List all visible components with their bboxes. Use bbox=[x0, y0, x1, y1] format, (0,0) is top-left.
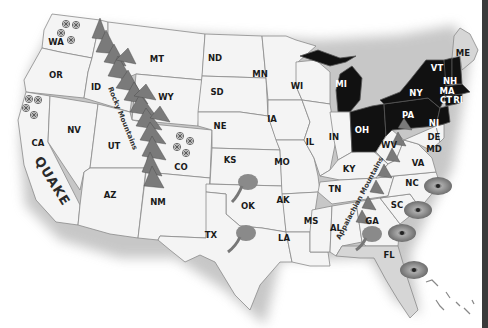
label-NE: NE bbox=[214, 121, 227, 131]
snowflake-icon bbox=[186, 137, 193, 144]
label-WV: WV bbox=[381, 140, 397, 150]
snowflake-icon bbox=[173, 143, 180, 150]
hurricane-icon-nc bbox=[424, 177, 452, 195]
snowflake-icon bbox=[34, 96, 41, 103]
label-AL: AL bbox=[330, 223, 343, 233]
label-CT: CT bbox=[440, 95, 452, 105]
label-SD: SD bbox=[210, 87, 223, 97]
label-CA: CA bbox=[32, 138, 45, 148]
label-PA: PA bbox=[402, 110, 414, 120]
label-ND: ND bbox=[208, 53, 222, 63]
label-ID: ID bbox=[91, 82, 101, 92]
us-hazards-map: Rocky Mountains Appalachian Mountains bbox=[0, 0, 488, 328]
state-AZ[interactable] bbox=[78, 168, 146, 238]
label-MT: MT bbox=[150, 54, 164, 64]
label-UT: UT bbox=[108, 141, 121, 151]
label-MD: MD bbox=[426, 144, 442, 154]
state-MS[interactable] bbox=[310, 206, 332, 252]
label-TN: TN bbox=[329, 184, 342, 194]
label-KS: KS bbox=[224, 155, 237, 165]
label-NY: NY bbox=[409, 88, 423, 98]
label-OK: OK bbox=[241, 201, 255, 211]
label-IL: IL bbox=[306, 137, 315, 147]
label-IA: IA bbox=[267, 114, 277, 124]
label-IN: IN bbox=[329, 132, 339, 142]
label-SC: SC bbox=[391, 200, 403, 210]
hurricane-icon-ga bbox=[388, 224, 416, 242]
label-GA: GA bbox=[365, 216, 379, 226]
snowflake-icon bbox=[22, 104, 29, 111]
label-NM: NM bbox=[150, 197, 166, 207]
label-MN: MN bbox=[252, 69, 268, 79]
state-SD[interactable] bbox=[198, 76, 268, 116]
label-RI: RI bbox=[453, 95, 463, 105]
label-FL: FL bbox=[383, 250, 395, 260]
snowflake-icon bbox=[62, 20, 69, 27]
label-TX: TX bbox=[205, 230, 218, 240]
hurricane-icon-fl bbox=[400, 261, 428, 279]
label-MI: MI bbox=[335, 79, 347, 89]
label-OH: OH bbox=[355, 125, 369, 135]
label-WI: WI bbox=[291, 81, 304, 91]
hurricane-icon-sc bbox=[404, 201, 432, 219]
label-DE: DE bbox=[428, 132, 441, 142]
label-CO: CO bbox=[174, 162, 187, 172]
label-AK: AK bbox=[276, 195, 290, 205]
snowflake-icon bbox=[67, 36, 74, 43]
label-KY: KY bbox=[343, 164, 357, 174]
label-NC: NC bbox=[405, 178, 418, 188]
label-WY: WY bbox=[158, 92, 174, 102]
label-MS: MS bbox=[304, 216, 319, 226]
label-AZ: AZ bbox=[104, 190, 117, 200]
label-NJ: NJ bbox=[429, 118, 439, 128]
snowflake-icon bbox=[182, 149, 189, 156]
label-VT: VT bbox=[431, 63, 444, 73]
label-MA: MA bbox=[439, 86, 454, 96]
label-WA: WA bbox=[48, 37, 64, 47]
snowflake-icon bbox=[57, 29, 64, 36]
snowflake-icon bbox=[72, 21, 79, 28]
label-VA: VA bbox=[412, 158, 425, 168]
label-LA: LA bbox=[278, 233, 290, 243]
snowflake-icon bbox=[30, 111, 37, 118]
label-MO: MO bbox=[274, 157, 290, 167]
label-OR: OR bbox=[49, 70, 63, 80]
snowflake-icon bbox=[176, 132, 183, 139]
window-edge bbox=[482, 0, 488, 328]
label-ME: ME bbox=[456, 48, 470, 58]
label-NV: NV bbox=[67, 125, 81, 135]
bahamas-islands bbox=[426, 280, 474, 314]
label-NH: NH bbox=[443, 76, 457, 86]
snowflake-icon bbox=[25, 95, 32, 102]
